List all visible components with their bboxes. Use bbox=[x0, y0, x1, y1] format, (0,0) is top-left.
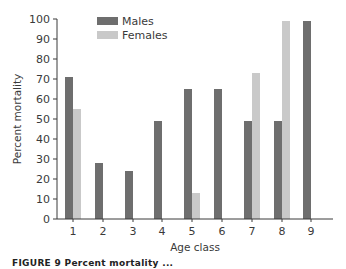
bar-females-1 bbox=[73, 109, 81, 219]
bar-males-2 bbox=[95, 163, 103, 219]
y-tick-label: 20 bbox=[36, 173, 50, 186]
legend-label-females: Females bbox=[122, 29, 168, 42]
bar-males-8 bbox=[274, 121, 282, 219]
y-tick-label: 10 bbox=[36, 193, 50, 206]
y-tick-label: 80 bbox=[36, 53, 50, 66]
y-tick-label: 70 bbox=[36, 73, 50, 86]
x-tick-label: 6 bbox=[219, 225, 226, 238]
bar-females-7 bbox=[252, 73, 260, 219]
legend-swatch-females bbox=[97, 31, 118, 39]
y-tick-label: 90 bbox=[36, 33, 50, 46]
bar-females-5 bbox=[192, 193, 200, 219]
bar-males-1 bbox=[65, 77, 73, 219]
y-tick-label: 50 bbox=[36, 113, 50, 126]
legend: Males Females bbox=[97, 15, 168, 42]
bar-males-6 bbox=[214, 89, 222, 219]
y-tick-label: 60 bbox=[36, 93, 50, 106]
x-tick-label: 8 bbox=[279, 225, 286, 238]
bars bbox=[65, 21, 311, 219]
legend-swatch-males bbox=[97, 17, 118, 25]
bar-males-7 bbox=[244, 121, 252, 219]
bar-chart: 0102030405060708090100 123456789 Age cla… bbox=[0, 0, 346, 269]
bar-males-9 bbox=[303, 21, 311, 219]
x-tick-label: 4 bbox=[159, 225, 166, 238]
x-axis-title: Age class bbox=[170, 241, 220, 253]
y-axis-ticks: 0102030405060708090100 bbox=[29, 13, 57, 226]
bar-males-5 bbox=[184, 89, 192, 219]
y-axis-title: Percent mortality bbox=[11, 74, 23, 165]
x-tick-label: 7 bbox=[249, 225, 256, 238]
bar-males-4 bbox=[154, 121, 162, 219]
y-tick-label: 40 bbox=[36, 133, 50, 146]
x-tick-label: 1 bbox=[70, 225, 77, 238]
bar-females-8 bbox=[282, 21, 290, 219]
legend-label-males: Males bbox=[122, 15, 154, 28]
figure-caption: FIGURE 9 Percent mortality ... bbox=[12, 258, 173, 268]
y-tick-label: 100 bbox=[29, 13, 50, 26]
y-tick-label: 30 bbox=[36, 153, 50, 166]
x-tick-label: 5 bbox=[189, 225, 196, 238]
y-tick-label: 0 bbox=[43, 213, 50, 226]
x-tick-label: 2 bbox=[100, 225, 107, 238]
x-tick-label: 9 bbox=[308, 225, 315, 238]
bar-males-3 bbox=[125, 171, 133, 219]
x-axis-ticks: 123456789 bbox=[70, 219, 315, 238]
x-tick-label: 3 bbox=[130, 225, 137, 238]
